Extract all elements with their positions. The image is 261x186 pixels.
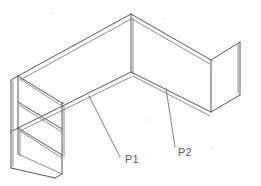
right-web-outer-face <box>131 14 211 112</box>
left-end-flange-face <box>11 76 18 132</box>
callout-p2-label: P2 <box>178 146 192 158</box>
left-web-outer-face <box>18 14 131 128</box>
technical-drawing-canvas: P1 P2 <box>0 0 261 186</box>
callout-p1[interactable]: P1 <box>89 96 139 165</box>
callout-p1-label: P1 <box>125 153 139 165</box>
right-end-flange-face <box>211 42 240 112</box>
callout-p1-leader-line <box>89 96 120 157</box>
isometric-part-drawing: P1 P2 <box>0 0 261 186</box>
